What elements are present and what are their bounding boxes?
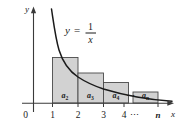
x-tick-label-n: n xyxy=(155,110,160,120)
equation-denominator: x xyxy=(87,34,93,45)
x-tick-label-2: 2 xyxy=(76,110,81,120)
harmonic-series-figure: y x 0 1 2 3 4 ⋯ n a2 a3 a4 an ⋯ xyxy=(0,0,182,128)
x-tick-label-4: 4 xyxy=(122,110,127,120)
x-axis-label: x xyxy=(170,109,175,119)
curve-equation: y = 1 x xyxy=(64,21,96,45)
equation-equals: = xyxy=(74,24,80,36)
y-axis-arrowhead xyxy=(31,7,36,14)
y-axis-label: y xyxy=(24,4,29,14)
x-axis-ellipsis: ⋯ xyxy=(130,110,140,120)
equation-lhs: y xyxy=(64,24,70,36)
x-axis-ticks xyxy=(53,103,159,107)
bar-gap-ellipsis: ⋯ xyxy=(126,91,136,101)
equation-numerator: 1 xyxy=(88,21,93,32)
x-tick-label-3: 3 xyxy=(101,110,106,120)
origin-label: 0 xyxy=(23,110,28,120)
x-tick-label-1: 1 xyxy=(50,110,55,120)
